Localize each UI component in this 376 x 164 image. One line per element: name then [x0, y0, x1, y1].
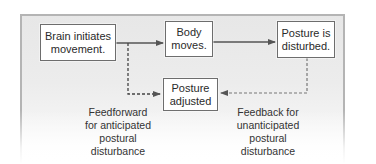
label-line: unanticipated	[218, 119, 318, 132]
node-text: Body	[171, 26, 206, 39]
node-text: Brain initiates	[45, 30, 111, 43]
node-posture-adjusted: Posture adjusted	[163, 78, 218, 111]
label-line: postural	[218, 132, 318, 145]
feedback-label: Feedback for unanticipated postural dist…	[218, 106, 318, 158]
label-line: disturbance	[68, 145, 168, 158]
label-line: disturbance	[218, 145, 318, 158]
node-text: movement.	[45, 43, 111, 56]
node-brain-initiates-movement: Brain initiates movement.	[40, 24, 116, 61]
label-line: Feedforward	[68, 106, 168, 119]
node-text: disturbed.	[282, 40, 331, 53]
feedforward-label: Feedforward for anticipated postural dis…	[68, 106, 168, 158]
label-line: Feedback for	[218, 106, 318, 119]
node-posture-disturbed: Posture is disturbed.	[277, 21, 335, 58]
node-text: moves.	[171, 39, 206, 52]
node-text: adjusted	[170, 95, 212, 108]
node-text: Posture	[170, 82, 212, 95]
label-line: for anticipated	[68, 119, 168, 132]
node-text: Posture is	[282, 27, 331, 40]
node-body-moves: Body moves.	[165, 21, 213, 57]
label-line: postural	[68, 132, 168, 145]
